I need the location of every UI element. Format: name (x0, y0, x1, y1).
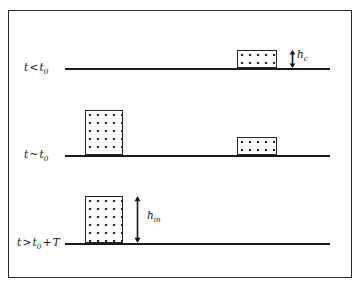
figure-canvas: t<t0 hc t~t0 t>t0+T (0, 0, 359, 288)
dimension-label-hin-symbol: h (147, 209, 154, 221)
dimension-label-hin-subscript: in (154, 216, 161, 224)
baseline-after (65, 243, 330, 245)
row-label-after-plus: + (42, 236, 53, 248)
dimension-arrow-hin (133, 196, 142, 243)
block-after-left (85, 196, 123, 243)
row-label-after-operator: > (21, 236, 32, 248)
row-label-after-period: T (53, 236, 60, 248)
row-after: t>t0+T hin (0, 0, 359, 288)
row-label-after: t>t0+T (17, 236, 60, 251)
dimension-label-hin: hin (147, 209, 161, 224)
row-label-after-subscript: 0 (37, 242, 42, 251)
